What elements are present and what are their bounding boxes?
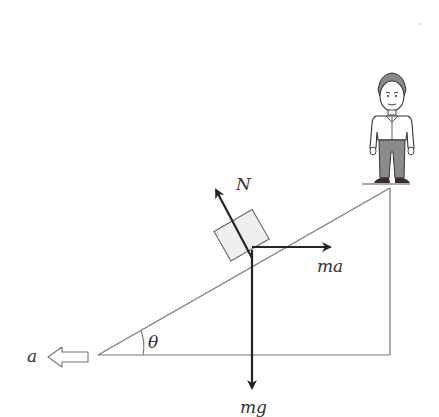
normal-force-label: N [235, 174, 252, 194]
observer-person-icon [362, 73, 414, 184]
artifact-dot [419, 23, 421, 25]
acceleration-label: a [27, 346, 37, 366]
angle-label: θ [148, 332, 158, 352]
incline-diagram: θ N ma mg a [0, 0, 439, 417]
pseudo-force-label: ma [317, 256, 343, 276]
block [214, 210, 269, 261]
gravity-label: mg [240, 397, 267, 417]
incline-wedge [98, 188, 390, 355]
angle-arc [141, 331, 144, 355]
acceleration-arrow-icon [48, 347, 88, 367]
